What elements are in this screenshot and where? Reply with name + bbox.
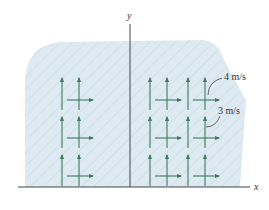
velocity-field-diagram: y x 4 m/s 3 m/s (0, 0, 269, 210)
speed-label-4ms: 4 m/s (224, 71, 246, 82)
speed-label-3ms: 3 m/s (218, 105, 240, 116)
y-axis-label: y (126, 10, 132, 21)
fluid-region (25, 40, 246, 187)
x-axis-label: x (253, 181, 259, 192)
